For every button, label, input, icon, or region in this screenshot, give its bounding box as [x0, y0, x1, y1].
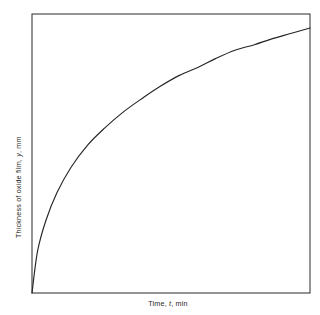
x-axis-label: Time, t, min — [0, 299, 320, 308]
x-axis-label-prefix: Time, — [148, 299, 169, 308]
x-axis-label-suffix: , min — [171, 299, 187, 308]
figure-container: Thickness of oxide film, y, mm Time, t, … — [0, 0, 320, 315]
y-axis-label-variable: y — [14, 153, 23, 157]
y-axis-label-prefix: Thickness of oxide film, — [14, 157, 23, 238]
plot-frame — [32, 14, 310, 293]
plot-area — [0, 0, 320, 315]
y-axis-label-suffix: , mm — [14, 136, 23, 153]
